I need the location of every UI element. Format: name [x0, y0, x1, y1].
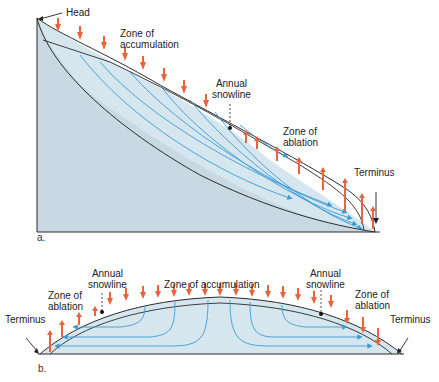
label-zone-accumulation: Zone of accumulation — [120, 28, 179, 50]
label-line: Annual — [306, 268, 345, 279]
diagram-b — [26, 283, 408, 354]
label-line: Zone of — [120, 28, 179, 39]
label-line: ablation — [355, 300, 390, 311]
label-terminus-right: Terminus — [390, 314, 431, 325]
label-line: ablation — [48, 301, 83, 312]
label-terminus: Terminus — [354, 167, 395, 178]
label-snowline-left: Annual snowline — [88, 268, 127, 290]
label-line: Zone of — [355, 289, 390, 300]
label-annual-snowline: Annual snowline — [212, 78, 251, 100]
label-line: ablation — [283, 137, 318, 148]
label-line: snowline — [306, 279, 345, 290]
label-zone-ablation-left: Zone of ablation — [48, 290, 83, 312]
label-head: Head — [66, 7, 90, 18]
label-line: Zone of — [283, 126, 318, 137]
label-line: snowline — [212, 89, 251, 100]
snowline-marker — [228, 126, 232, 130]
label-snowline-right: Annual snowline — [306, 268, 345, 290]
glacier-diagram — [0, 0, 439, 382]
label-line: Annual — [88, 268, 127, 279]
label-zone-ablation: Zone of ablation — [283, 126, 318, 148]
snowline-marker-left — [100, 310, 104, 314]
panel-label-b: b. — [38, 363, 46, 374]
label-zone-accumulation-b: Zone of accumulation — [164, 279, 260, 290]
panel-label-a: a. — [37, 232, 45, 243]
label-zone-ablation-right: Zone of ablation — [355, 289, 390, 311]
diagram-a — [37, 13, 380, 232]
label-line: snowline — [88, 279, 127, 290]
label-line: Annual — [212, 78, 251, 89]
label-line: accumulation — [120, 39, 179, 50]
label-line: Zone of — [48, 290, 83, 301]
snowline-marker-right — [319, 312, 323, 316]
ice-cap-body — [40, 297, 402, 354]
label-terminus-left: Terminus — [5, 314, 46, 325]
